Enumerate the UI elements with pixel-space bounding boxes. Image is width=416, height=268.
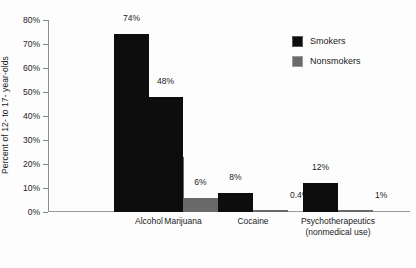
bar-value-label: 74% (123, 13, 140, 23)
y-axis-tick-label: 20% (6, 159, 40, 169)
legend-item-smokers[interactable]: Smokers (292, 31, 361, 51)
bar-nonsmokers-cocaine[interactable] (253, 210, 288, 212)
y-axis-tick-label: 10% (6, 183, 40, 193)
x-axis-label-cocaine: Cocaine (237, 216, 268, 227)
gray-square-swatch (292, 56, 303, 67)
bar-value-label: 48% (157, 76, 174, 86)
bar-nonsmokers-psychotherapeutics[interactable] (338, 210, 373, 212)
bar-smokers-cocaine[interactable] (218, 193, 253, 212)
x-axis-label-line: Psychotherapeutics (301, 216, 375, 227)
bar-value-label: 8% (229, 172, 241, 182)
bar-smokers-alcohol[interactable] (114, 34, 149, 212)
legend-item-nonsmokers[interactable]: Nonsmokers (292, 51, 361, 71)
y-axis-tick-label: 60% (6, 63, 40, 73)
x-axis-label-line: Alcohol (135, 216, 163, 227)
chart-legend: SmokersNonsmokers (292, 31, 361, 71)
black-square-swatch (292, 36, 303, 47)
bar-nonsmokers-marijuana[interactable] (183, 198, 218, 212)
bar-chart-figure: Percent of 12- to 17- year-olds 80%70%60… (0, 0, 416, 268)
y-axis-tick-label: 40% (6, 111, 40, 121)
x-axis-label-line: Marijuana (164, 216, 201, 227)
x-axis-label-marijuana: Marijuana (164, 216, 201, 227)
bar-smokers-psychotherapeutics[interactable] (303, 183, 338, 212)
legend-item-label: Smokers (310, 36, 346, 46)
x-axis-label-line: Cocaine (237, 216, 268, 227)
bar-value-label: 1% (375, 190, 387, 200)
x-axis-label-psychotherapeutics: Psychotherapeutics(nonmedical use) (301, 216, 375, 238)
x-axis-label-subline: (nonmedical use) (301, 227, 375, 238)
bar-value-label: 6% (194, 177, 206, 187)
bar-smokers-marijuana[interactable] (148, 97, 183, 212)
bar-group: 48%6% (148, 20, 218, 212)
y-axis-tick-label: 30% (6, 135, 40, 145)
y-axis-tick-label: 80% (6, 15, 40, 25)
x-axis-label-alcohol: Alcohol (135, 216, 163, 227)
bar-value-label: 12% (312, 162, 329, 172)
y-axis-tick-label: 70% (6, 39, 40, 49)
bar-group: 8%0.4% (218, 20, 288, 212)
legend-item-label: Nonsmokers (310, 56, 361, 66)
y-axis-tick-label: 0% (6, 207, 40, 217)
y-axis-tick-label: 50% (6, 87, 40, 97)
